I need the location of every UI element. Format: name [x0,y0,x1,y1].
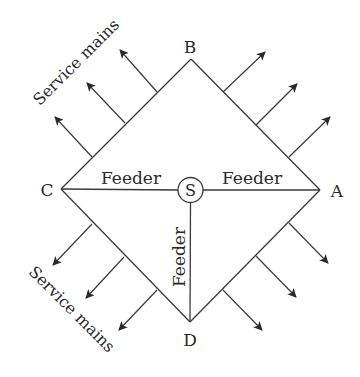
service-arrow-icon [53,224,92,265]
service-arrow-icon [289,223,328,263]
node-label-b: B [184,37,197,57]
feeders [61,189,320,322]
service-mains-label-top: Service mains [29,15,123,109]
service-arrow-icon [86,257,124,298]
feeder-s-d [190,203,191,323]
node-label-d: D [183,330,197,350]
service-arrow-icon [87,83,125,123]
service-mains-label-bottom: Service mains [25,262,119,356]
service-arrow-icon [55,117,92,157]
service-arrow-icon [119,290,157,330]
node-label-a: A [330,181,344,201]
feeder-s-c [61,189,178,190]
feeder-label-vertical: Feeder [169,226,189,287]
service-arrow-icon [256,84,297,125]
service-arrow-icon [289,117,330,157]
node-label-c: C [40,180,53,200]
feeder-label-right: Feeder [222,168,283,188]
ring-distributor-diagram: S A B C D Feeder Feeder Feeder Service m… [0,0,360,377]
service-arrow-icon [120,50,157,92]
service-arrow-icon [223,52,265,92]
service-arrow-icon [256,256,296,297]
feeder-label-left: Feeder [101,168,162,188]
service-arrow-icon [223,290,262,330]
edge-a-d [190,190,320,322]
source-node: S [178,178,203,203]
source-label: S [185,181,196,200]
